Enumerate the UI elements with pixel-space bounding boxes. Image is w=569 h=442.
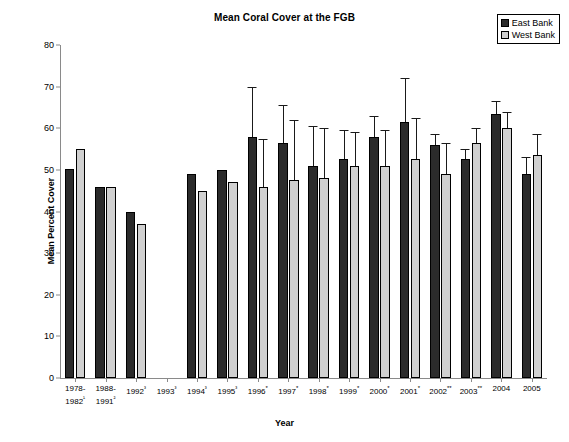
bar-east bbox=[217, 170, 227, 378]
bars-wrapper bbox=[60, 45, 90, 378]
legend-item-east-bank: East Bank bbox=[501, 17, 555, 29]
error-bar-cap bbox=[472, 128, 481, 129]
y-axis-tick-label: 20 bbox=[44, 290, 54, 300]
y-axis-tick-label: 70 bbox=[44, 82, 54, 92]
error-bar-cap bbox=[339, 130, 348, 131]
bar-west bbox=[259, 187, 269, 378]
bars-wrapper bbox=[364, 45, 394, 378]
x-axis-tick-label: 2002** bbox=[429, 384, 451, 396]
error-bar-line bbox=[283, 105, 284, 142]
x-axis-tick-label: 2003** bbox=[460, 384, 482, 396]
bars-wrapper bbox=[456, 45, 486, 378]
bar-west bbox=[106, 187, 116, 378]
legend-label-east: East Bank bbox=[512, 18, 553, 28]
x-axis-tick-label: 1992³ bbox=[126, 384, 146, 396]
legend-swatch-east-icon bbox=[501, 19, 509, 27]
bar-west bbox=[533, 155, 543, 378]
bar-east bbox=[248, 137, 258, 378]
x-axis-tick-label: 1993³ bbox=[157, 384, 177, 396]
bar-group: 2005 bbox=[517, 45, 547, 378]
bars-wrapper bbox=[273, 45, 303, 378]
error-bar-cap bbox=[259, 139, 268, 140]
y-axis-tick-label: 30 bbox=[44, 248, 54, 258]
bar-group: 1992³ bbox=[121, 45, 151, 378]
error-bar-cap bbox=[278, 105, 287, 106]
bar-east bbox=[65, 169, 75, 378]
bar-west bbox=[502, 128, 512, 378]
error-bar-line bbox=[252, 87, 253, 137]
error-bar-line bbox=[507, 112, 508, 129]
error-bar-line bbox=[355, 132, 356, 165]
bar-west bbox=[472, 143, 482, 378]
error-bar-cap bbox=[248, 87, 257, 88]
error-bar-line bbox=[374, 116, 375, 137]
bar-west bbox=[76, 149, 86, 378]
bar-east bbox=[369, 137, 379, 378]
bar-west bbox=[411, 159, 421, 378]
error-bar-cap bbox=[533, 134, 542, 135]
x-axis-tick-mark bbox=[440, 378, 441, 382]
bars-wrapper bbox=[304, 45, 334, 378]
x-axis-tick-mark bbox=[197, 378, 198, 382]
bars-wrapper bbox=[395, 45, 425, 378]
bar-east bbox=[126, 212, 136, 379]
bar-west bbox=[319, 178, 329, 378]
bar-group: 1995³ bbox=[212, 45, 242, 378]
bar-east bbox=[491, 114, 501, 378]
y-axis-tick-label: 80 bbox=[44, 40, 54, 50]
y-axis-tick-label: 0 bbox=[49, 373, 54, 383]
bar-east bbox=[308, 166, 318, 378]
bar-group: 2002** bbox=[425, 45, 455, 378]
error-bar-cap bbox=[289, 120, 298, 121]
bar-group: 2003** bbox=[456, 45, 486, 378]
chart-container: Mean Coral Cover at the FGB East Bank We… bbox=[0, 0, 569, 442]
y-axis-tick-label: 60 bbox=[44, 123, 54, 133]
y-axis-tick-label: 40 bbox=[44, 207, 54, 217]
bars-wrapper bbox=[425, 45, 455, 378]
bar-group: 1998* bbox=[304, 45, 334, 378]
x-axis-tick-mark bbox=[167, 378, 168, 382]
error-bar-line bbox=[324, 128, 325, 178]
error-bar-line bbox=[263, 139, 264, 187]
bars-wrapper bbox=[243, 45, 273, 378]
bar-group: 1999* bbox=[334, 45, 364, 378]
x-axis-tick-label: 1988-1991² bbox=[95, 384, 115, 406]
x-axis-tick-label: 2004 bbox=[492, 384, 510, 394]
error-bar-line bbox=[496, 101, 497, 113]
bar-west bbox=[228, 182, 238, 378]
y-axis-tick-label: 10 bbox=[44, 331, 54, 341]
error-bar-line bbox=[537, 134, 538, 155]
bars-wrapper bbox=[182, 45, 212, 378]
error-bar-cap bbox=[381, 130, 390, 131]
x-axis-tick-mark bbox=[75, 378, 76, 382]
x-axis-line bbox=[60, 378, 547, 379]
error-bar-line bbox=[476, 128, 477, 143]
x-axis-tick-label: 1998* bbox=[309, 384, 329, 396]
error-bar-cap bbox=[522, 157, 531, 158]
bars-wrapper bbox=[486, 45, 516, 378]
chart-legend: East Bank West Bank bbox=[497, 14, 560, 44]
error-bar-line bbox=[416, 118, 417, 160]
x-axis-tick-label: 1995³ bbox=[218, 384, 238, 396]
error-bar-cap bbox=[441, 143, 450, 144]
bar-group: 1997* bbox=[273, 45, 303, 378]
x-axis-tick-mark bbox=[349, 378, 350, 382]
error-bar-line bbox=[435, 134, 436, 144]
x-axis-tick-label: 1996* bbox=[248, 384, 268, 396]
bar-west bbox=[289, 180, 299, 378]
plot-area: 01020304050607080 1978-1982¹1988-1991²19… bbox=[60, 45, 547, 378]
error-bar-line bbox=[405, 78, 406, 122]
bar-east bbox=[461, 159, 471, 378]
bar-east bbox=[187, 174, 197, 378]
x-axis-tick-mark bbox=[410, 378, 411, 382]
bar-east bbox=[400, 122, 410, 378]
bar-group: 2001* bbox=[395, 45, 425, 378]
bar-west bbox=[350, 166, 360, 378]
x-axis-tick-mark bbox=[501, 378, 502, 382]
bar-east bbox=[522, 174, 532, 378]
bar-east bbox=[339, 159, 349, 378]
x-axis-tick-mark bbox=[380, 378, 381, 382]
bar-group: 1993³ bbox=[151, 45, 181, 378]
bar-east bbox=[95, 187, 105, 378]
bar-group: 1994³ bbox=[182, 45, 212, 378]
